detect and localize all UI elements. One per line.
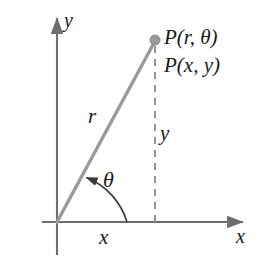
- radius-segment: [57, 41, 155, 222]
- point-polar-label: P(r, θ): [164, 27, 217, 48]
- abscissa-label: x: [99, 227, 108, 248]
- point-cartesian-label: P(x, y): [164, 55, 220, 76]
- x-axis-label: x: [236, 226, 245, 246]
- ordinate-label: y: [160, 123, 169, 144]
- polar-coordinates-figure: y x P(r, θ) P(x, y) r y x θ: [0, 0, 271, 263]
- figure-canvas: [0, 0, 271, 263]
- radius-label: r: [88, 106, 96, 127]
- y-axis-label: y: [64, 10, 73, 30]
- point-marker: [150, 35, 160, 45]
- theta-label: θ: [103, 169, 114, 191]
